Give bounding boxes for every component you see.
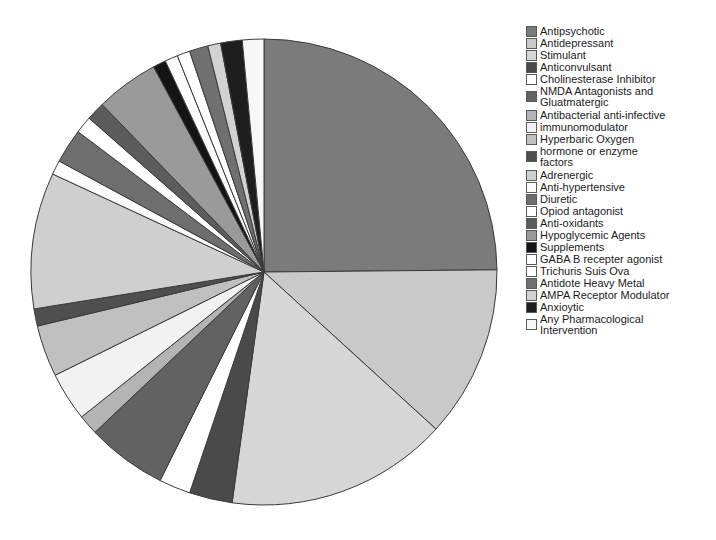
legend-item-label: immunomodulator <box>540 121 628 133</box>
legend-swatch-icon <box>526 62 537 73</box>
legend-item-label: Antidote Heavy Metal <box>540 277 645 289</box>
legend-item[interactable]: immunomodulator <box>526 121 716 133</box>
legend-swatch-icon <box>526 278 537 289</box>
pie-slice-group <box>31 39 497 505</box>
pie-chart-figure: AntipsychoticAntidepressantStimulantAnti… <box>0 0 716 540</box>
legend-swatch-icon <box>526 266 537 277</box>
legend-swatch-icon <box>526 319 537 330</box>
legend-item[interactable]: Anti-oxidants <box>526 217 716 229</box>
legend-item-label: Hyperbaric Oxygen <box>540 133 634 145</box>
legend-item-label: Antidepressant <box>540 37 613 49</box>
legend-swatch-icon <box>526 206 537 217</box>
legend-item[interactable]: Trichuris Suis Ova <box>526 265 716 277</box>
legend-swatch-icon <box>526 38 537 49</box>
legend-item-label: Trichuris Suis Ova <box>540 265 629 277</box>
legend-item-label: GABA B recepter agonist <box>540 253 662 265</box>
legend-item-label: Diuretic <box>540 193 577 205</box>
legend-item[interactable]: Cholinesterase Inhibitor <box>526 73 716 85</box>
legend-swatch-icon <box>526 50 537 61</box>
legend-item-label: hormone or enzyme factors <box>540 145 638 168</box>
legend-item[interactable]: Anticonvulsant <box>526 61 716 73</box>
legend-swatch-icon <box>526 254 537 265</box>
legend-item-label: Stimulant <box>540 49 586 61</box>
legend-swatch-icon <box>526 194 537 205</box>
legend-item[interactable]: GABA B recepter agonist <box>526 253 716 265</box>
legend-swatch-icon <box>526 134 537 145</box>
legend-swatch-icon <box>526 182 537 193</box>
legend-item-label: Supplements <box>540 241 604 253</box>
legend-swatch-icon <box>526 290 537 301</box>
pie-svg <box>0 0 510 540</box>
legend-swatch-icon <box>526 242 537 253</box>
legend-swatch-icon <box>526 170 537 181</box>
legend-item[interactable]: Any Pharmacological Intervention <box>526 313 716 336</box>
legend-item[interactable]: Anxioytic <box>526 301 716 313</box>
legend-swatch-icon <box>526 91 537 102</box>
legend-item[interactable]: Supplements <box>526 241 716 253</box>
legend: AntipsychoticAntidepressantStimulantAnti… <box>526 25 716 337</box>
legend-item-label: Any Pharmacological Intervention <box>540 313 643 336</box>
legend-item-label: Anti-hypertensive <box>540 181 625 193</box>
legend-item-label: Opiod antagonist <box>540 205 623 217</box>
legend-item-label: NMDA Antagonists and Gluatmatergic <box>540 85 653 108</box>
legend-item[interactable]: Opiod antagonist <box>526 205 716 217</box>
legend-swatch-icon <box>526 302 537 313</box>
legend-item[interactable]: Antidote Heavy Metal <box>526 277 716 289</box>
legend-swatch-icon <box>526 122 537 133</box>
legend-item[interactable]: Hyperbaric Oxygen <box>526 133 716 145</box>
legend-swatch-icon <box>526 74 537 85</box>
legend-item-label: AMPA Receptor Modulator <box>540 289 669 301</box>
legend-swatch-icon <box>526 230 537 241</box>
legend-item-label: Antipsychotic <box>540 25 605 37</box>
legend-item[interactable]: NMDA Antagonists and Gluatmatergic <box>526 85 716 108</box>
legend-item[interactable]: Adrenergic <box>526 169 716 181</box>
legend-swatch-icon <box>526 110 537 121</box>
legend-swatch-icon <box>526 26 537 37</box>
legend-item[interactable]: Diuretic <box>526 193 716 205</box>
legend-swatch-icon <box>526 218 537 229</box>
legend-item[interactable]: Antidepressant <box>526 37 716 49</box>
legend-item-label: Anxioytic <box>540 301 584 313</box>
pie-plot-area <box>0 0 510 540</box>
legend-item[interactable]: Hypoglycemic Agents <box>526 229 716 241</box>
legend-item-label: Cholinesterase Inhibitor <box>540 73 656 85</box>
legend-item-label: Hypoglycemic Agents <box>540 229 645 241</box>
legend-item-label: Anticonvulsant <box>540 61 612 73</box>
pie-slice[interactable] <box>264 39 497 272</box>
legend-swatch-icon <box>526 151 537 162</box>
legend-item-label: Adrenergic <box>540 169 593 181</box>
legend-item[interactable]: Anti-hypertensive <box>526 181 716 193</box>
legend-item[interactable]: Antibacterial anti-infective <box>526 109 716 121</box>
legend-item[interactable]: AMPA Receptor Modulator <box>526 289 716 301</box>
legend-item-label: Antibacterial anti-infective <box>540 109 665 121</box>
legend-item-label: Anti-oxidants <box>540 217 604 229</box>
legend-item[interactable]: Stimulant <box>526 49 716 61</box>
legend-item[interactable]: hormone or enzyme factors <box>526 145 716 168</box>
legend-item[interactable]: Antipsychotic <box>526 25 716 37</box>
